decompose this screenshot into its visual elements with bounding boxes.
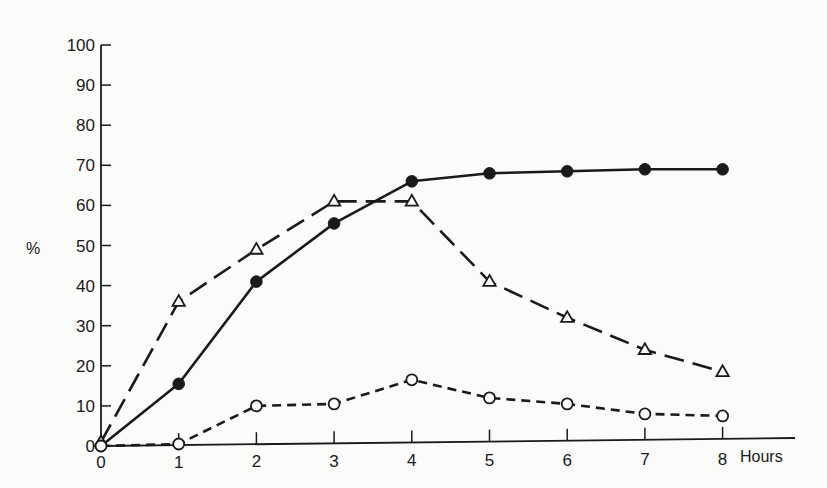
open-circle-marker	[484, 392, 495, 403]
open-triangle-marker	[250, 243, 262, 254]
x-axis-line	[101, 438, 795, 446]
x-tick-label: 7	[640, 450, 649, 469]
y-tick-label: 60	[76, 196, 95, 215]
y-axis-label: %	[26, 240, 40, 257]
series-lines	[101, 169, 723, 446]
open-triangle-marker	[716, 365, 728, 376]
y-tick-label: 0	[86, 437, 95, 456]
open-circle-marker	[251, 400, 262, 411]
line-chart: 0102030405060708090100 012345678 % Hours	[0, 0, 827, 488]
filled-circle-marker	[561, 166, 573, 178]
x-tick-label: 5	[485, 451, 494, 470]
x-tick-label: 1	[174, 453, 183, 472]
filled-circle-marker	[484, 168, 496, 180]
open-circle-marker	[717, 410, 728, 421]
y-tick-label: 100	[67, 36, 95, 55]
y-tick-label: 70	[76, 156, 95, 175]
open-circle-marker	[173, 438, 184, 449]
open-circle-marker	[639, 408, 650, 419]
y-tick-label: 90	[76, 76, 95, 95]
x-tick-label: 8	[718, 450, 727, 469]
x-tick-label: 6	[562, 451, 571, 470]
y-tick-label: 20	[76, 357, 95, 376]
x-axis-label: Hours	[740, 448, 783, 465]
filled-circle-marker	[173, 378, 185, 390]
x-tick-label: 3	[329, 452, 338, 471]
filled-circle-marker	[328, 218, 340, 230]
filled-circle-marker	[717, 164, 729, 176]
filled-circle-marker	[251, 276, 263, 288]
filled-circle-marker	[639, 164, 651, 176]
y-tick-label: 10	[76, 397, 95, 416]
open-circle-marker	[96, 441, 107, 452]
open-circle-marker	[329, 398, 340, 409]
y-tick-label: 50	[76, 237, 95, 256]
filled-circle-marker	[406, 176, 418, 188]
x-tick-label: 4	[407, 451, 416, 470]
x-axis-ticks: 012345678	[96, 427, 727, 472]
y-tick-label: 30	[76, 317, 95, 336]
open-circle-marker	[406, 374, 417, 385]
open-triangle-marker	[173, 295, 185, 306]
y-tick-label: 40	[76, 277, 95, 296]
y-axis-ticks: 0102030405060708090100	[67, 36, 111, 456]
series-line-0	[101, 169, 723, 446]
series-line-1	[101, 201, 723, 442]
x-tick-label: 0	[96, 453, 105, 472]
y-tick-label: 80	[76, 116, 95, 135]
open-circle-marker	[562, 398, 573, 409]
series-markers	[95, 164, 729, 452]
x-tick-label: 2	[252, 452, 261, 471]
